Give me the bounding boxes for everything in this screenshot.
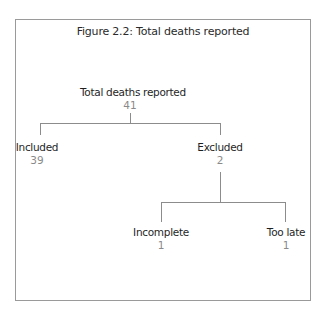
node-label: Too late	[260, 226, 312, 239]
connector-level1-horizontal	[40, 123, 221, 124]
connector-root-stem	[130, 113, 131, 123]
node-label: Included	[12, 141, 62, 154]
node-total-deaths: Total deaths reported 41	[80, 86, 180, 112]
node-value: 41	[80, 99, 180, 112]
node-incomplete: Incomplete 1	[126, 226, 196, 252]
connector-level2-horizontal	[161, 202, 286, 203]
connector-included-drop	[40, 123, 41, 135]
node-included: Included 39	[12, 141, 62, 167]
node-too-late: Too late 1	[260, 226, 312, 252]
figure-title: Figure 2.2: Total deaths reported	[15, 25, 311, 38]
connector-excluded-stem	[220, 172, 221, 202]
node-value: 39	[12, 154, 62, 167]
node-label: Excluded	[190, 141, 250, 154]
connector-too-late-drop	[285, 202, 286, 222]
connector-excluded-drop	[220, 123, 221, 135]
node-excluded: Excluded 2	[190, 141, 250, 167]
node-value: 1	[260, 239, 312, 252]
node-label: Total deaths reported	[80, 86, 180, 99]
node-value: 2	[190, 154, 250, 167]
node-label: Incomplete	[126, 226, 196, 239]
node-value: 1	[126, 239, 196, 252]
connector-incomplete-drop	[161, 202, 162, 222]
